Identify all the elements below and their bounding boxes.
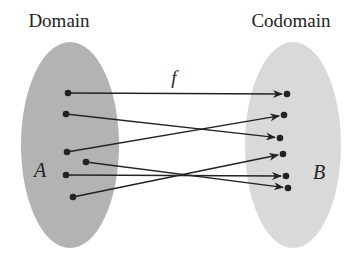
element-dot-b4 — [280, 151, 287, 158]
element-dot-a2 — [63, 111, 70, 118]
codomain-ellipse — [245, 42, 341, 248]
element-dot-a6 — [70, 194, 77, 201]
domain-title: Domain — [28, 10, 90, 31]
element-dot-b1 — [284, 91, 291, 98]
element-dot-b6 — [285, 185, 292, 192]
element-dot-a3 — [64, 149, 71, 156]
element-dot-a5 — [63, 172, 70, 179]
element-dot-b2 — [281, 112, 288, 119]
codomain-title: Codomain — [251, 10, 331, 31]
element-dot-b3 — [277, 135, 284, 142]
codomain-set-label: B — [313, 161, 325, 183]
domain-set: Domain A — [21, 10, 119, 248]
codomain-set: Codomain B — [245, 10, 341, 248]
element-dot-b5 — [283, 173, 290, 180]
element-dot-a1 — [65, 90, 72, 97]
element-dot-a4 — [83, 159, 90, 166]
function-mapping-diagram: Domain A Codomain B f — [0, 0, 362, 256]
function-label: f — [171, 67, 179, 88]
domain-set-label: A — [32, 159, 47, 181]
